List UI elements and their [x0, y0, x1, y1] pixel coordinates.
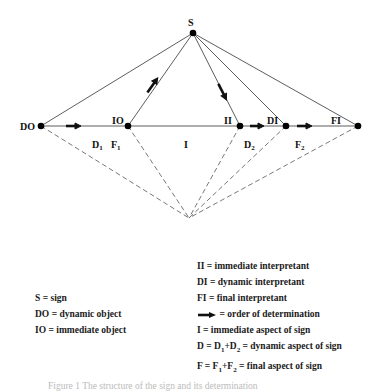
nodes: [38, 30, 362, 130]
arrow-icon: [145, 76, 160, 94]
label-io: IO: [112, 115, 124, 126]
label-s: S: [188, 17, 194, 28]
region-i: I: [184, 139, 188, 150]
aspect-lines: [41, 126, 358, 218]
sign-lines: [41, 33, 358, 126]
legend-item: I = immediate aspect of sign: [197, 322, 342, 338]
legend-left: S = sign DO = dynamic object IO = immedi…: [35, 290, 126, 338]
arrow-icon: [250, 123, 264, 129]
arrow-icon: [197, 311, 217, 319]
node-ii: [237, 123, 244, 130]
label-ii: II: [224, 115, 232, 126]
node-do: [38, 123, 45, 130]
legend-item: FI = final interpretant: [197, 290, 342, 306]
region-f1: F1: [111, 139, 121, 152]
legend-item: II = immediate interpretant: [197, 258, 342, 274]
node-s: [190, 30, 197, 37]
arrow-icon: [216, 83, 230, 102]
legend-item: D = D1+D2 = dynamic aspect of sign: [197, 338, 342, 358]
region-d2: D2: [244, 139, 255, 152]
node-di: [283, 123, 290, 130]
arrow-icon: [297, 123, 312, 129]
semiotic-diagram: S DO IO II DI FI D1 F1 I D2 F2: [0, 0, 376, 300]
region-d1: D1: [92, 139, 103, 152]
node-io: [125, 123, 132, 130]
legend-item: DO = dynamic object: [35, 306, 126, 322]
label-fi: FI: [331, 115, 341, 126]
legend-right: II = immediate interpretant DI = dynamic…: [197, 258, 342, 378]
legend-item: = order of determination: [197, 306, 342, 322]
legend-item: F = F1+F2 = final aspect of sign: [197, 358, 342, 378]
label-di: DI: [267, 115, 278, 126]
arrow-icon: [66, 123, 81, 129]
node-fi: [355, 123, 362, 130]
legend-item: IO = immediate object: [35, 322, 126, 338]
legend-item: DI = dynamic interpretant: [197, 274, 342, 290]
region-f2: F2: [295, 139, 305, 152]
legend-item: S = sign: [35, 290, 126, 306]
figure-caption: Figure 1 The structure of the sign and i…: [48, 381, 258, 391]
label-do: DO: [20, 121, 35, 132]
